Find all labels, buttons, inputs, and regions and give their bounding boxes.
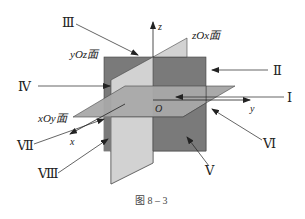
octant-v-label: Ⅴ	[204, 163, 215, 178]
zox-plane-lower	[111, 117, 153, 184]
xoy-plane	[73, 86, 206, 117]
xoy-plane-label: xOy面	[37, 112, 69, 124]
figure-caption: 图 8 – 3	[135, 195, 168, 206]
octant-vi-label: Ⅵ	[262, 136, 276, 151]
octant-i-label: Ⅰ	[287, 90, 292, 105]
yoz-plane-label: yOz面	[69, 48, 100, 60]
octant-viii-pointer	[58, 139, 108, 173]
octant-vii-label: Ⅶ	[16, 138, 34, 153]
z-axis-label: z	[157, 21, 162, 32]
octant-viii-label: Ⅷ	[37, 166, 58, 181]
octant-diagram: z y x O yOz面 zOx面 xOy面 Ⅲ Ⅱ Ⅳ Ⅰ Ⅵ Ⅴ Ⅶ Ⅷ 图…	[0, 0, 305, 219]
zox-plane-back	[153, 38, 187, 57]
y-axis-label: y	[249, 103, 255, 114]
octant-vi-pointer	[212, 109, 262, 140]
origin-label: O	[155, 103, 162, 114]
octant-ii-label: Ⅱ	[273, 63, 282, 78]
zox-plane-label: zOx面	[191, 29, 222, 41]
octant-iii-label: Ⅲ	[62, 15, 75, 30]
octant-iv-label: Ⅳ	[18, 79, 32, 94]
yoz-plane-lower-left	[104, 117, 111, 151]
x-axis-label: x	[69, 136, 75, 147]
xoy-plane-back	[206, 86, 235, 103]
